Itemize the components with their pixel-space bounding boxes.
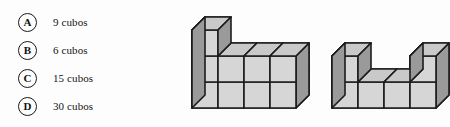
- option-letter-c: C: [18, 69, 37, 88]
- cube-front-face: [244, 56, 270, 82]
- worksheet-canvas: A 9 cubos B 6 cubos C 15 cubos D 30 cubo…: [0, 0, 450, 127]
- cube-solid-left-svg: [188, 6, 318, 121]
- option-text-a: 9 cubos: [53, 16, 88, 28]
- solid-left-wall: [192, 17, 205, 108]
- answer-option-b[interactable]: B 6 cubos: [18, 36, 158, 64]
- cube-front-face: [218, 82, 244, 108]
- option-text-c: 15 cubos: [53, 72, 93, 84]
- option-text-b: 6 cubos: [53, 44, 88, 56]
- cube-solid-left: [188, 6, 318, 121]
- cube-front-face: [270, 56, 296, 82]
- cube-front-face: [218, 56, 244, 82]
- cube-solid-right: [328, 6, 450, 121]
- cube-solid-right-svg: [328, 6, 450, 121]
- cube-front-face: [410, 82, 436, 108]
- cube-front-face: [244, 82, 270, 108]
- answer-option-a[interactable]: A 9 cubos: [18, 8, 158, 36]
- option-letter-a: A: [18, 13, 37, 32]
- option-letter-b: B: [18, 41, 37, 60]
- answer-option-d[interactable]: D 30 cubos: [18, 92, 158, 120]
- answer-option-c[interactable]: C 15 cubos: [18, 64, 158, 92]
- option-text-d: 30 cubos: [53, 100, 93, 112]
- option-letter-d: D: [18, 97, 37, 116]
- answer-options-list: A 9 cubos B 6 cubos C 15 cubos D 30 cubo…: [18, 8, 158, 120]
- cube-front-face: [270, 82, 296, 108]
- cube-front-face: [384, 82, 410, 108]
- cube-front-face: [358, 82, 384, 108]
